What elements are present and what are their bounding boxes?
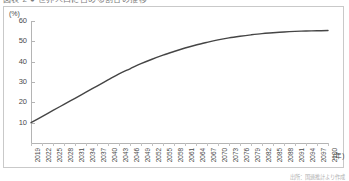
x-axis-tick-label: 2043 (122, 148, 129, 162)
x-axis-tick-label: 2091 (298, 148, 305, 162)
x-axis-tick-mark (273, 143, 274, 146)
x-axis-tick-mark (64, 143, 65, 146)
x-axis-tick-label: 2046 (133, 148, 140, 162)
x-axis-tick-label: 2097 (320, 148, 327, 162)
x-axis-tick-mark (306, 143, 307, 146)
x-axis-tick-label: 2082 (265, 148, 272, 162)
x-axis-tick-label: 2079 (254, 148, 261, 162)
x-axis-tick-label: 2052 (155, 148, 162, 162)
x-axis-tick-mark (119, 143, 120, 146)
x-axis-tick-mark (262, 143, 263, 146)
x-axis-tick-mark (53, 143, 54, 146)
y-axis-tick-label: 60 (7, 16, 27, 25)
x-axis-tick-mark (218, 143, 219, 146)
x-axis-tick-label: 2037 (100, 148, 107, 162)
x-axis-tick-label: 2064 (199, 148, 206, 162)
x-axis-tick-mark (185, 143, 186, 146)
x-axis-tick-label: 2022 (45, 148, 52, 162)
x-axis-tick-label: 2085 (276, 148, 283, 162)
chart-plot-area (31, 21, 328, 143)
x-axis-tick-mark (317, 143, 318, 146)
x-axis-tick-mark (240, 143, 241, 146)
x-axis-tick-label: 2073 (232, 148, 239, 162)
y-axis-tick-label: 30 (7, 77, 27, 86)
x-axis-tick-label: 2058 (177, 148, 184, 162)
x-axis-tick-label: 2055 (166, 148, 173, 162)
series-line-path (31, 31, 328, 123)
y-axis-tick-label: 50 (7, 36, 27, 45)
x-axis-tick-label: 2076 (243, 148, 250, 162)
x-axis-tick-mark (31, 143, 32, 146)
page-title: 図表 2 ● 世界人口に占める割合の推移 (3, 0, 147, 5)
x-axis-tick-label: 2088 (287, 148, 294, 162)
x-axis-tick-label: 2049 (144, 148, 151, 162)
y-axis-tick-label: 40 (7, 57, 27, 66)
x-axis-tick-label: 2061 (188, 148, 195, 162)
x-axis-tick-label: 2028 (67, 148, 74, 162)
y-axis-tick-label: 10 (7, 118, 27, 127)
x-axis-tick-mark (108, 143, 109, 146)
x-axis-tick-label: 2031 (78, 148, 85, 162)
x-axis-tick-mark (251, 143, 252, 146)
x-axis-tick-mark (42, 143, 43, 146)
x-axis-tick-mark (284, 143, 285, 146)
x-axis-tick-mark (130, 143, 131, 146)
x-axis-tick-mark (75, 143, 76, 146)
x-axis-tick-label: 2070 (221, 148, 228, 162)
x-axis-tick-mark (328, 143, 329, 146)
x-axis-unit-label: (年) (333, 150, 344, 160)
x-axis-tick-label: 2094 (309, 148, 316, 162)
x-axis-tick-label: 2067 (210, 148, 217, 162)
source-note: 出所：国連推計より作成 (290, 173, 345, 180)
x-axis-tick-mark (207, 143, 208, 146)
x-axis-tick-mark (174, 143, 175, 146)
x-axis-tick-label: 2019 (34, 148, 41, 162)
x-axis-tick-mark (163, 143, 164, 146)
x-axis-tick-mark (97, 143, 98, 146)
x-axis-tick-label: 2025 (56, 148, 63, 162)
x-axis-tick-label: 2040 (111, 148, 118, 162)
x-axis-tick-mark (86, 143, 87, 146)
chart-page: 図表 2 ● 世界人口に占める割合の推移 (%) 102030405060 20… (0, 0, 349, 181)
x-axis-tick-mark (229, 143, 230, 146)
x-axis-tick-label: 2034 (89, 148, 96, 162)
x-axis-tick-mark (196, 143, 197, 146)
x-axis-tick-mark (152, 143, 153, 146)
x-axis-tick-mark (141, 143, 142, 146)
y-axis-tick-label: 20 (7, 97, 27, 106)
x-axis-tick-mark (295, 143, 296, 146)
